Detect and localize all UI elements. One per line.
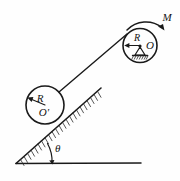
hatch-marks bbox=[21, 91, 102, 165]
pulley-center-label: O bbox=[146, 39, 154, 51]
incline-angle-label: θ bbox=[55, 142, 61, 154]
pulley-radius-label: R bbox=[133, 32, 140, 43]
disc-radius-label: R bbox=[36, 92, 44, 104]
mechanics-figure: θ R O' R O bbox=[0, 0, 180, 181]
moment-label: M bbox=[161, 11, 172, 23]
support-ground-hatching bbox=[132, 56, 148, 59]
horizontal-ground bbox=[16, 163, 141, 164]
figure-canvas: θ R O' R O bbox=[0, 0, 180, 181]
radius-arrow-pulley bbox=[124, 43, 140, 48]
disc-center-label: O' bbox=[39, 106, 50, 118]
angle-arc bbox=[48, 144, 55, 165]
cord-line bbox=[59, 34, 127, 92]
